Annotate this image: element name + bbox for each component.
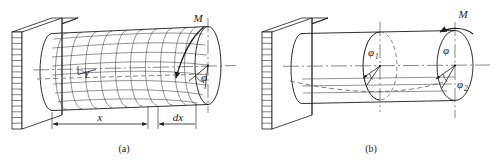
dimension-dx-label-a: dx [173,111,184,123]
shaft-bottom-edge-a [52,105,208,111]
angle-mid-sub-b: 1 [375,52,379,61]
caption-b: (b) [365,143,377,155]
wall-support-b [262,18,328,129]
angle-end-label-b: φ [457,78,463,90]
axis-center-dot-a [207,64,209,66]
torque-label-b: M [457,8,468,20]
phi1-radius-original-b [367,66,380,85]
wall-hatch-face-b [262,32,272,129]
torque-arrow-b [440,28,473,34]
wall-main-face-a [22,18,62,129]
twist-angle-label-a: φ [201,71,207,83]
axis-center-dot-end-b [454,64,456,66]
shaft-rings-a [55,27,197,110]
torque-arc-b [440,28,473,34]
angle-phi2-marker-b [436,64,456,88]
wall-main-face-b [272,18,312,129]
angle-mid-label-b: φ [368,46,374,58]
torque-label-a: M [192,12,203,24]
torsion-figure-svg: M γ φ x dx (a) [0,0,498,162]
axis-center-dot-mid-b [379,65,381,67]
dimension-x-label-a: x [97,111,103,123]
caption-a: (a) [118,143,129,155]
figure-root: M γ φ x dx (a) [0,0,498,162]
phi1-label-group-b: φ 1 [368,46,379,61]
shaft-bottom-edge-b [302,101,455,104]
angle-phi1-marker-b [363,65,381,85]
axis-dashdot-b [283,65,490,66]
angle-end-sub2-b: 2 [464,84,468,93]
shear-strain-label-a: γ [85,66,90,78]
phi2-label-group-b: φ 2 [457,78,468,93]
surface-lines-b [302,77,455,93]
shaft-a [40,27,221,111]
panel-b: M φ 1 φ φ 2 (b) [262,8,490,155]
angle-end-plain-label-b: φ [443,44,449,56]
phi1-radius-rotated-b [363,66,380,78]
panel-a: M γ φ x dx (a) [12,12,236,155]
phi2-arc-b [443,74,447,82]
wall-hatch-face-a [12,32,22,129]
wall-support-a [12,18,78,129]
shaft-top-edge-a [52,27,208,34]
